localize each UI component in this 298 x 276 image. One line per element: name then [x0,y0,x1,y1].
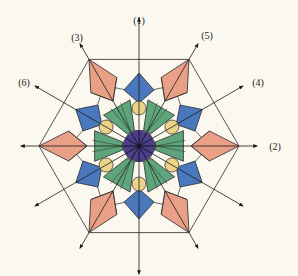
center-dot [138,145,141,148]
salmon-kite [161,191,189,233]
axis-label-2: (2) [269,141,281,153]
axis-label-5: (5) [201,30,213,42]
axis-label-3: (3) [71,32,83,44]
salmon-kite [89,191,117,233]
salmon-kite [89,59,117,101]
blue-diamond [76,105,102,131]
salmon-kite [161,59,189,101]
blue-diamond [176,105,202,131]
axis-label-4: (4) [252,77,264,89]
blue-diamond [76,161,102,187]
axis-label-1: (1) [133,15,145,27]
blue-diamond [176,161,202,187]
axis-label-6: (6) [18,77,30,89]
axes-layer [21,18,257,274]
symmetry-diagram: (1)(2)(3)(4)(5)(6) [0,0,298,276]
